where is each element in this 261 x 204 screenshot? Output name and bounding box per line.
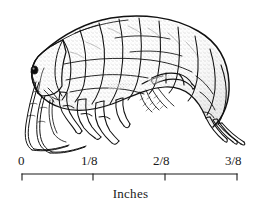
eye <box>31 66 38 74</box>
ruler-axis <box>0 152 261 186</box>
body-shading <box>28 14 233 129</box>
uropods <box>203 112 245 145</box>
figure-page: 0 1/8 2/8 3/8 Inches <box>0 0 261 204</box>
scale-caption: Inches <box>0 186 261 202</box>
scale-bar: 0 1/8 2/8 3/8 Inches <box>0 152 261 204</box>
amphipod-illustration <box>0 0 261 155</box>
amphipod-body-group <box>25 14 245 153</box>
